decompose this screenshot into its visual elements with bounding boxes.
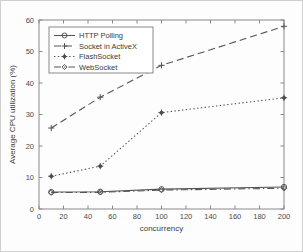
series-line xyxy=(51,98,284,176)
cpu-utilization-line-chart: 020406080100120140160180200concurrency01… xyxy=(1,1,303,252)
x-tick-label: 60 xyxy=(108,212,116,221)
chart-legend: HTTP PollingSocket in ActiveXFlashSocket… xyxy=(49,27,153,73)
marker-plus-filled-dot xyxy=(50,175,53,178)
marker-plus-filled-dot xyxy=(283,96,286,99)
y-tick-label: 40 xyxy=(26,79,34,88)
figure-container: 020406080100120140160180200concurrency01… xyxy=(0,0,303,252)
legend-label: FlashSocket xyxy=(79,52,121,61)
series-websocket xyxy=(49,186,287,196)
x-tick-label: 160 xyxy=(229,212,242,221)
y-tick-label: 0 xyxy=(30,205,34,214)
y-tick-label: 20 xyxy=(26,142,34,151)
marker-plus-filled-dot xyxy=(63,55,66,58)
x-tick-label: 40 xyxy=(84,212,92,221)
x-tick-label: 100 xyxy=(155,212,168,221)
y-tick-label: 50 xyxy=(26,47,34,56)
x-tick-label: 180 xyxy=(253,212,266,221)
x-axis-title: concurrency xyxy=(140,224,184,233)
legend-label: Socket in ActiveX xyxy=(79,42,137,51)
x-tick-label: 140 xyxy=(204,212,217,221)
legend-label: WebSocket xyxy=(79,63,118,72)
x-tick-label: 200 xyxy=(278,212,291,221)
legend-label: HTTP Polling xyxy=(79,31,123,40)
y-tick-label: 10 xyxy=(26,173,34,182)
x-tick-label: 20 xyxy=(59,212,67,221)
x-tick-label: 120 xyxy=(180,212,193,221)
x-tick-label: 0 xyxy=(37,212,41,221)
marker-plus-filled-dot xyxy=(160,111,163,114)
marker-plus-filled-dot xyxy=(99,165,102,168)
y-axis-title: Average CPU utilization (%) xyxy=(8,65,17,164)
y-tick-label: 30 xyxy=(26,110,34,119)
y-tick-label: 60 xyxy=(26,16,34,25)
x-tick-label: 80 xyxy=(133,212,141,221)
